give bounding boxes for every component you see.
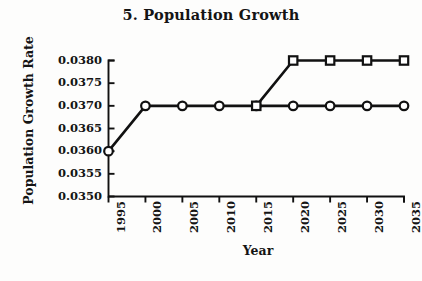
- series-line-0: [109, 106, 405, 151]
- data-point-marker: [215, 102, 224, 111]
- series-line-1: [256, 61, 404, 106]
- data-point-marker: [326, 56, 334, 64]
- axis-lines: [109, 61, 405, 203]
- data-point-marker: [289, 56, 297, 64]
- plot-area: [0, 0, 422, 281]
- data-point-marker: [104, 147, 113, 156]
- data-point-marker: [178, 102, 187, 111]
- data-point-marker: [326, 102, 335, 111]
- data-point-marker: [400, 56, 408, 64]
- data-point-marker: [400, 102, 409, 111]
- data-point-marker: [363, 56, 371, 64]
- data-point-marker: [141, 102, 150, 111]
- data-series-layer: [104, 56, 408, 155]
- data-point-marker: [363, 102, 372, 111]
- data-point-marker: [289, 102, 298, 111]
- chart-figure: 5. Population Growth Population Growth R…: [0, 0, 422, 281]
- data-point-marker: [252, 102, 260, 110]
